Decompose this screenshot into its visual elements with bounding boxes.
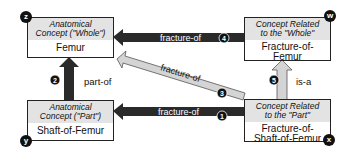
node-whole: Anatomical Concept ("Whole") Femur <box>27 17 114 58</box>
node-related-part-badge: x <box>323 134 335 146</box>
node-related-part: Concept Related to the "Part" Fracture-o… <box>244 99 331 142</box>
svg-text:5: 5 <box>272 77 276 84</box>
edge-1-label: fracture-of <box>158 107 200 117</box>
edge-1-arrow: fracture-of 1 <box>113 103 245 121</box>
node-whole-badge: z <box>20 11 32 23</box>
edge-4-label: fracture-of <box>160 33 202 43</box>
node-related-part-name: Fracture-of- Shaft-of-Femur <box>245 122 330 146</box>
node-related-whole-header: Concept Related to the "Whole" <box>245 18 330 40</box>
node-related-whole-badge: w <box>324 10 336 22</box>
edge-5-label: is-a <box>296 76 311 87</box>
node-part-header: Anatomical Concept ("Part") <box>28 101 113 123</box>
node-whole-name: Femur <box>28 40 113 55</box>
svg-text:4: 4 <box>222 35 226 42</box>
edge-2-label: part-of <box>84 76 111 87</box>
edge-4-arrow: fracture-of 4 <box>113 29 245 46</box>
node-related-whole-name: Fracture-of- Femur <box>245 40 330 64</box>
node-related-part-header: Concept Related to the "Part" <box>245 100 330 122</box>
edge-3-arrow: fracture-of 3 <box>117 51 245 100</box>
node-part: Anatomical Concept ("Part") Shaft-of-Fem… <box>27 100 114 141</box>
node-part-badge: y <box>20 135 32 147</box>
svg-text:3: 3 <box>220 90 224 97</box>
svg-text:2: 2 <box>53 77 57 84</box>
node-related-whole: Concept Related to the "Whole" Fracture-… <box>244 17 331 61</box>
node-whole-header: Anatomical Concept ("Whole") <box>28 18 113 40</box>
edge-5-arrow: 5 <box>269 60 292 101</box>
node-part-name: Shaft-of-Femur <box>28 123 113 138</box>
edge-2-arrow: 2 <box>50 57 79 101</box>
svg-text:1: 1 <box>220 113 224 120</box>
